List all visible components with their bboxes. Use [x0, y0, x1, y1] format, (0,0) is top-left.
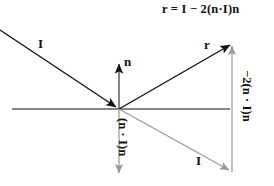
reflection-diagram-figure: r = I − 2(n·I)n I n r I (n · I)n −2(n · …: [0, 0, 274, 186]
incident-continuation-label: I: [196, 154, 201, 167]
reflection-formula: r = I − 2(n·I)n: [162, 3, 239, 16]
incident-ray-label: I: [38, 37, 43, 50]
normal-vector-label: n: [124, 55, 131, 68]
offset-vector-label: −2(n · I)n: [241, 70, 254, 122]
projection-vector-label: (n · I)n: [117, 118, 130, 156]
incident-ray-arrow-icon: [0, 26, 116, 107]
incident-continuation-arrow-icon: [119, 109, 229, 170]
reflected-ray-arrow-icon: [119, 45, 230, 109]
diagram-canvas: [0, 0, 274, 186]
reflected-ray-label: r: [204, 38, 210, 51]
